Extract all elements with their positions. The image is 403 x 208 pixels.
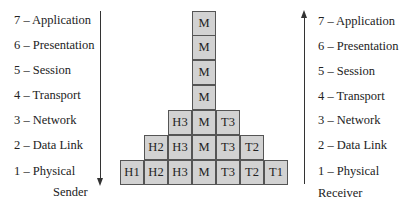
- cell-header-h2: H2: [144, 160, 168, 185]
- receiver-layer-6: 6 – Presentation: [318, 39, 399, 53]
- sender-caption: Sender: [53, 185, 88, 199]
- cell-header-h3: H3: [168, 160, 192, 185]
- cell-header-h3: H3: [168, 135, 192, 160]
- receiver-layer-4: 4 – Transport: [318, 89, 385, 103]
- cell-message: M: [192, 85, 216, 110]
- cell-trailer-t1: T1: [264, 160, 288, 185]
- cell-trailer-t2: T2: [240, 135, 264, 160]
- sender-layer-7: 7 – Application: [14, 13, 91, 27]
- cell-header-h3: H3: [168, 110, 192, 135]
- receiver-layer-3: 3 – Network: [318, 113, 381, 127]
- cell-message: M: [192, 11, 216, 36]
- cell-header-h1: H1: [120, 160, 144, 185]
- cell-header-h2: H2: [144, 135, 168, 160]
- sender-arrow-line: [100, 11, 101, 179]
- sender-layer-4: 4 – Transport: [14, 88, 81, 102]
- cell-message: M: [192, 160, 216, 185]
- sender-layer-5: 5 – Session: [14, 63, 71, 77]
- cell-message: M: [192, 35, 216, 60]
- receiver-layer-2: 2 – Data Link: [318, 138, 387, 152]
- sender-layer-6: 6 – Presentation: [14, 38, 95, 52]
- receiver-caption: Receiver: [318, 186, 362, 200]
- cell-trailer-t3: T3: [216, 160, 240, 185]
- cell-message: M: [192, 60, 216, 85]
- sender-layer-2: 2 – Data Link: [14, 138, 83, 152]
- sender-layer-1: 1 – Physical: [14, 164, 75, 178]
- receiver-layer-7: 7 – Application: [318, 14, 395, 28]
- arrow-down-icon: [97, 178, 103, 186]
- receiver-layer-5: 5 – Session: [318, 64, 375, 78]
- receiver-layer-1: 1 – Physical: [318, 164, 379, 178]
- cell-trailer-t3: T3: [216, 110, 240, 135]
- cell-message: M: [192, 135, 216, 160]
- receiver-arrow-line: [304, 17, 305, 184]
- sender-layer-3: 3 – Network: [14, 113, 77, 127]
- cell-message: M: [192, 110, 216, 135]
- cell-trailer-t3: T3: [216, 135, 240, 160]
- cell-trailer-t2: T2: [240, 160, 264, 185]
